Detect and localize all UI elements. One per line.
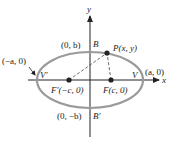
- dashed-line-left-focus-to-p: [69, 53, 107, 80]
- covertex-bottom-point: [88, 106, 91, 109]
- covertex-bottom-name-label: B′: [93, 111, 101, 121]
- vertex-right-coord-label: (a, 0): [145, 67, 164, 77]
- focus-right-label: F(c, 0): [102, 85, 128, 95]
- covertex-top-name-label: B: [93, 39, 99, 49]
- covertex-top-point: [88, 50, 91, 53]
- vertex-right-name-label: V: [132, 70, 139, 80]
- point-p-label: P(x, y): [112, 43, 137, 53]
- point-p: [104, 50, 109, 55]
- vertex-left-point: [35, 78, 38, 81]
- y-axis-label: y: [86, 4, 91, 14]
- vertex-left-name-label: V′: [40, 70, 48, 80]
- focus-right-point: [108, 77, 113, 82]
- covertex-bottom-coord-label: (0, −b): [57, 111, 82, 121]
- focus-left-label: F′(−c, 0): [50, 85, 84, 95]
- vertex-left-pointer-arrow: [29, 67, 35, 75]
- focus-left-point: [66, 77, 71, 82]
- ellipse-diagram: x y (−a, 0) V′ (a, 0) V (0, b) B (0, −b)…: [0, 0, 177, 142]
- vertex-left-coord-label: (−a, 0): [2, 56, 26, 66]
- vertex-right-point: [141, 78, 144, 81]
- covertex-top-coord-label: (0, b): [61, 40, 81, 50]
- dashed-line-right-focus-to-p: [107, 53, 111, 80]
